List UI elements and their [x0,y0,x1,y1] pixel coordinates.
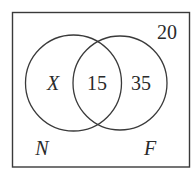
n-only-value-label: X [47,73,59,93]
f-only-value-label: 35 [131,73,151,93]
intersection-value-label: 15 [87,73,107,93]
set-f-name-label: F [144,138,156,158]
outside-count-label: 20 [157,22,177,42]
set-n-name-label: N [35,138,48,158]
